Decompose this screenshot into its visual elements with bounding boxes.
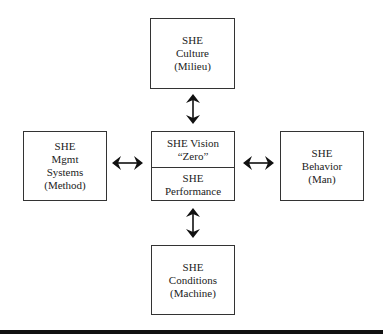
culture-line-1: SHE (182, 34, 203, 47)
double-arrow-vertical-bottom-icon (186, 208, 200, 238)
vision-performance-box: SHE Vision “Zero” SHE Performance (151, 131, 235, 201)
mgmt-line-3: Systems (47, 166, 84, 179)
performance-line-1: SHE (183, 172, 204, 185)
conditions-line-3: (Machine) (170, 287, 216, 300)
double-arrow-vertical-top-icon (186, 94, 200, 124)
culture-line-2: Culture (176, 47, 209, 60)
culture-line-3: (Milieu) (174, 60, 211, 73)
mgmt-systems-box: SHE Mgmt Systems (Method) (23, 131, 107, 201)
conditions-box: SHE Conditions (Machine) (151, 245, 235, 315)
behavior-box: SHE Behavior (Man) (280, 131, 364, 201)
conditions-line-1: SHE (183, 261, 204, 274)
behavior-line-2: Behavior (302, 160, 342, 173)
vision-line-1: SHE Vision (167, 137, 219, 150)
conditions-line-2: Conditions (169, 274, 217, 287)
mgmt-line-1: SHE (55, 140, 76, 153)
bottom-divider (0, 330, 383, 334)
vision-section: SHE Vision “Zero” (152, 132, 234, 168)
vision-line-2: “Zero” (178, 150, 209, 163)
culture-box: SHE Culture (Milieu) (150, 18, 235, 89)
mgmt-line-4: (Method) (44, 179, 86, 192)
double-arrow-horizontal-left-icon (112, 156, 143, 170)
performance-line-2: Performance (165, 185, 221, 198)
behavior-line-1: SHE (312, 147, 333, 160)
mgmt-line-2: Mgmt (52, 153, 79, 166)
behavior-line-3: (Man) (308, 173, 336, 186)
double-arrow-horizontal-right-icon (243, 156, 274, 170)
performance-section: SHE Performance (152, 168, 234, 201)
